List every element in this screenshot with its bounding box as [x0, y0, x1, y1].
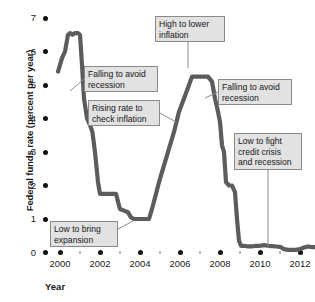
- callout-low-to-fight-credit-crisis: Low to fight credit crisis and recession: [234, 133, 302, 170]
- callout-low-to-bring-expansion: Low to bring expansion: [50, 221, 118, 247]
- federal-funds-rate-chart: Federal funds rate (percent per year) Ye…: [0, 0, 315, 302]
- callout-falling-to-avoid-recession-2007: Falling to avoid recession: [218, 79, 292, 105]
- callout-rising-rate-to-check-inflation: Rising rate to check inflation: [88, 100, 160, 126]
- callout-falling-to-avoid-recession-2001: Falling to avoid recession: [84, 66, 158, 92]
- callout-high-to-lower-inflation: High to lower inflation: [155, 16, 225, 42]
